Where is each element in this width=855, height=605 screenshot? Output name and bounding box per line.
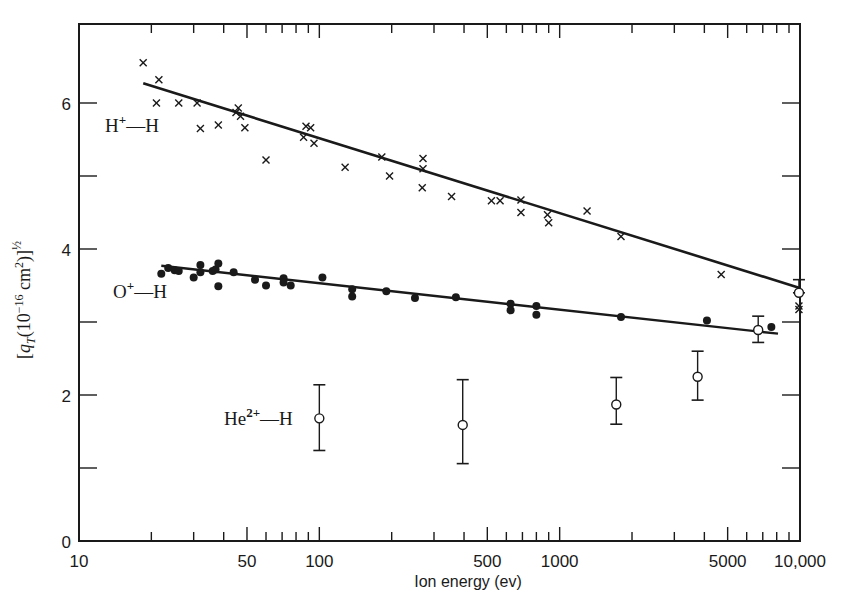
hplus-fit-line xyxy=(143,83,799,287)
dot-marker xyxy=(532,311,540,319)
errorbar-point xyxy=(692,351,704,400)
plot-frame xyxy=(79,24,800,541)
x-tick-label: 10 xyxy=(70,552,89,571)
x-marker xyxy=(310,140,317,147)
x-marker xyxy=(618,233,625,240)
errorbar-point xyxy=(793,280,805,298)
x-marker xyxy=(241,124,248,131)
x-marker xyxy=(386,173,393,180)
dot-marker xyxy=(532,302,540,310)
dot-marker xyxy=(214,282,222,290)
x-marker xyxy=(517,209,524,216)
x-marker xyxy=(420,155,427,162)
dot-marker xyxy=(196,261,204,269)
x-marker xyxy=(718,271,725,278)
dot-marker xyxy=(507,306,515,314)
dot-marker xyxy=(190,273,198,281)
y-tick-label: 0 xyxy=(62,533,71,552)
errorbar-point xyxy=(313,385,325,451)
x-marker xyxy=(544,211,551,218)
x-marker xyxy=(215,121,222,128)
x-tick-label: 10,000 xyxy=(774,552,826,571)
dot-marker xyxy=(196,268,204,276)
dot-marker xyxy=(411,294,419,302)
dot-marker xyxy=(348,285,356,293)
plot-border xyxy=(79,24,800,541)
x-marker xyxy=(795,306,802,313)
y-axis-title: [qT(10−16 cm2)]½ xyxy=(10,241,38,359)
x-tick-label: 1000 xyxy=(541,552,579,571)
x-axis-title: Ion energy (ev) xyxy=(414,573,522,590)
x-marker xyxy=(342,164,349,171)
dot-marker xyxy=(318,273,326,281)
dot-marker xyxy=(157,270,165,278)
errorbar-point xyxy=(457,380,469,464)
dot-marker xyxy=(251,276,259,284)
dot-marker xyxy=(767,323,775,331)
data-series: H+—HO+—HHe2+—H xyxy=(105,59,805,463)
dot-marker xyxy=(214,260,222,268)
x-marker xyxy=(153,100,160,107)
dot-marker xyxy=(452,293,460,301)
x-marker xyxy=(155,76,162,83)
x-marker xyxy=(545,219,552,226)
y-tick-label: 6 xyxy=(62,95,71,114)
x-marker xyxy=(197,125,204,132)
dot-marker xyxy=(262,282,270,290)
y-tick-label: 2 xyxy=(62,387,71,406)
y-tick-label: 4 xyxy=(62,241,71,260)
x-marker xyxy=(419,184,426,191)
dot-marker xyxy=(348,292,356,300)
oplus-label: O+—H xyxy=(113,278,167,302)
dot-marker xyxy=(703,317,711,325)
svg-text:[qT(10−16 cm2)]½: [qT(10−16 cm2)]½ xyxy=(10,241,38,359)
x-marker xyxy=(140,59,147,66)
dot-marker xyxy=(230,268,238,276)
hplus-label: H+—H xyxy=(105,112,159,136)
chart: 10501005001000500010,0000246 H+—HO+—HHe2… xyxy=(0,0,855,605)
x-marker xyxy=(584,208,591,215)
dot-marker xyxy=(382,287,390,295)
he2plus-label: He2+—H xyxy=(224,405,293,429)
errorbar-point xyxy=(752,316,764,342)
x-marker xyxy=(795,302,802,309)
x-tick-label: 50 xyxy=(238,552,257,571)
x-tick-label: 5000 xyxy=(709,552,747,571)
errorbar-point xyxy=(610,377,622,424)
x-marker xyxy=(448,193,455,200)
x-marker xyxy=(300,134,307,141)
x-marker xyxy=(488,197,495,204)
x-tick-label: 500 xyxy=(473,552,501,571)
dot-marker xyxy=(287,282,295,290)
x-marker xyxy=(263,156,270,163)
x-marker xyxy=(175,100,182,107)
x-marker xyxy=(497,197,504,204)
dot-marker xyxy=(617,313,625,321)
dot-marker xyxy=(280,279,288,287)
x-tick-label: 100 xyxy=(305,552,333,571)
dot-marker xyxy=(175,267,183,275)
